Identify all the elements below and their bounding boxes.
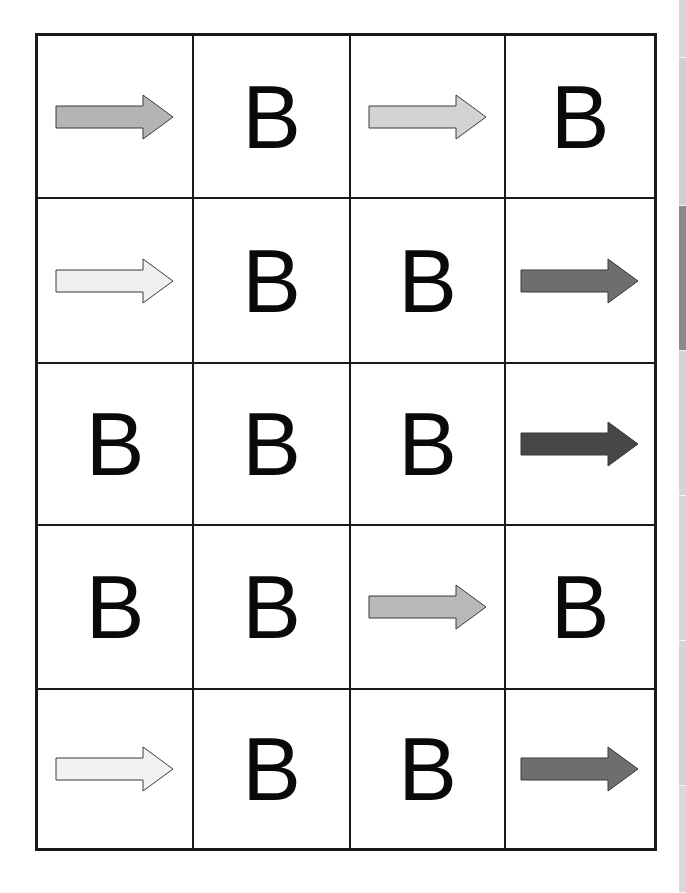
edge-segment <box>679 786 686 893</box>
grid-cell-r4-c4: B <box>506 526 654 690</box>
edge-segment <box>679 58 686 206</box>
grid-cell-r5-c1 <box>38 690 194 848</box>
arrow-right-icon <box>368 584 488 630</box>
grid-cell-r2-c3: B <box>351 199 506 364</box>
letter-b: B <box>86 399 145 489</box>
page-edge-strip <box>679 0 686 893</box>
letter-b: B <box>398 236 457 326</box>
grid-cell-r3-c4 <box>506 364 654 526</box>
grid-cell-r4-c1: B <box>38 526 194 690</box>
grid-cell-r3-c1: B <box>38 364 194 526</box>
letter-b: B <box>242 399 301 489</box>
arrow-right-icon <box>520 258 640 304</box>
grid-cell-r1-c4: B <box>506 36 654 199</box>
grid-cell-r4-c3 <box>351 526 506 690</box>
letter-b: B <box>398 724 457 814</box>
letter-b: B <box>242 562 301 652</box>
grid-cell-r1-c1 <box>38 36 194 199</box>
grid-cell-r5-c2: B <box>194 690 351 848</box>
edge-segment <box>679 0 686 58</box>
grid-cell-r5-c3: B <box>351 690 506 848</box>
grid-cell-r4-c2: B <box>194 526 351 690</box>
letter-b: B <box>242 72 301 162</box>
edge-segment <box>679 641 686 786</box>
arrow-right-icon <box>55 746 175 792</box>
grid-cell-r3-c3: B <box>351 364 506 526</box>
grid-cell-r5-c4 <box>506 690 654 848</box>
grid-cell-r1-c2: B <box>194 36 351 199</box>
grid-cell-r2-c4 <box>506 199 654 364</box>
letter-b: B <box>551 562 610 652</box>
edge-segment <box>679 351 686 496</box>
arrow-right-icon <box>368 94 488 140</box>
letter-b: B <box>398 399 457 489</box>
arrow-right-icon <box>520 746 640 792</box>
letter-b: B <box>242 236 301 326</box>
edge-segment <box>679 496 686 641</box>
arrow-letter-grid: BBBBBBBBBBBB <box>35 33 657 851</box>
grid-cell-r1-c3 <box>351 36 506 199</box>
grid-cell-r2-c1 <box>38 199 194 364</box>
letter-b: B <box>551 72 610 162</box>
arrow-right-icon <box>520 421 640 467</box>
letter-b: B <box>86 562 145 652</box>
edge-segment <box>679 206 686 351</box>
letter-b: B <box>242 724 301 814</box>
arrow-right-icon <box>55 258 175 304</box>
grid-cell-r2-c2: B <box>194 199 351 364</box>
arrow-right-icon <box>55 94 175 140</box>
grid-cell-r3-c2: B <box>194 364 351 526</box>
